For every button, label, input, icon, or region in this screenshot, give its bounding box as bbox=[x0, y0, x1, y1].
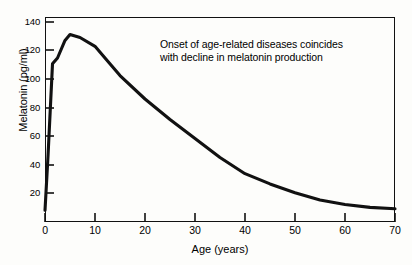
annotation-line-2: with decline in melatonin production bbox=[160, 51, 400, 64]
x-tick-label-0: 0 bbox=[32, 225, 58, 236]
y-axis-title: Melatonin (pg/ml) bbox=[17, 15, 29, 165]
x-tick-label-50: 50 bbox=[282, 225, 308, 236]
chart-annotation: Onset of age-related diseases coincides … bbox=[160, 38, 400, 63]
x-tick-label-40: 40 bbox=[232, 225, 258, 236]
annotation-line-1: Onset of age-related diseases coincides bbox=[160, 38, 400, 51]
y-tick-label-20: 20 bbox=[12, 188, 40, 198]
x-tick-label-70: 70 bbox=[382, 225, 408, 236]
x-axis-title: Age (years) bbox=[150, 243, 290, 255]
x-tick-label-30: 30 bbox=[182, 225, 208, 236]
chart-figure: 140 120 100 80 60 40 20 0 10 20 30 40 50… bbox=[0, 0, 412, 265]
x-tick-label-20: 20 bbox=[132, 225, 158, 236]
x-axis-ticks bbox=[45, 213, 395, 222]
x-tick-label-60: 60 bbox=[332, 225, 358, 236]
x-tick-label-10: 10 bbox=[82, 225, 108, 236]
